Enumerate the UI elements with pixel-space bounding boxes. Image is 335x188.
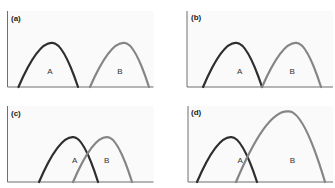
panel-label-c: (c) [11, 109, 21, 118]
curve-label-a-panel-d: A [238, 156, 244, 165]
panel-label-d: (d) [191, 108, 202, 117]
panel-d: (d) AB [188, 106, 333, 182]
panel-c-background [8, 106, 154, 182]
curve-label-b-panel-b: B [289, 67, 294, 76]
curve-label-a-panel-a: A [47, 67, 53, 76]
panel-a: (a) AB [8, 11, 154, 87]
curve-label-b-panel-c: B [104, 156, 109, 165]
panel-label-a: (a) [11, 14, 21, 23]
curve-label-a-panel-c: A [72, 156, 78, 165]
curve-label-b-panel-a: B [117, 67, 122, 76]
panel-label-b: (b) [191, 13, 202, 22]
curve-label-a-panel-b: A [237, 67, 243, 76]
curve-label-b-panel-d: B [290, 156, 295, 165]
panel-b: (b) AB [187, 11, 333, 87]
figure-four-panels: (a) AB (b) AB (c) AB (d) AB [0, 0, 335, 188]
panel-c: (c) AB [8, 106, 154, 182]
